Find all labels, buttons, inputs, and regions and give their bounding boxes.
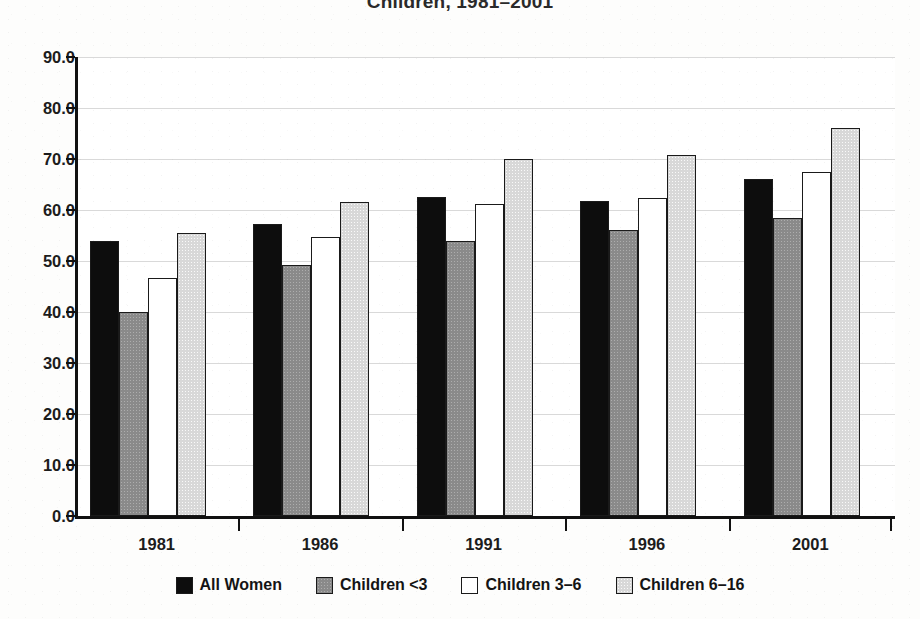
legend-swatch-icon: [176, 577, 193, 594]
legend-label: Children <3: [340, 576, 428, 594]
x-axis-tick-label: 1991: [424, 535, 544, 554]
x-axis-tick-label: 1981: [97, 535, 217, 554]
legend-swatch-icon: [316, 577, 333, 594]
x-axis: 19811986199119962001: [75, 519, 892, 561]
y-axis-tick-mark: [66, 158, 75, 160]
y-axis-tick-mark: [66, 515, 75, 517]
y-axis-tick-mark: [66, 209, 75, 211]
y-axis-tick-mark: [66, 56, 75, 58]
bar[interactable]: [638, 198, 667, 516]
bar[interactable]: [504, 159, 533, 517]
legend-label: Children 6–16: [640, 576, 745, 594]
bar[interactable]: [773, 218, 802, 516]
bar[interactable]: [609, 230, 638, 516]
bar[interactable]: [90, 241, 119, 516]
bar[interactable]: [831, 128, 860, 516]
x-axis-tick-mark: [565, 519, 567, 531]
bar-group: [253, 57, 369, 516]
bar[interactable]: [119, 312, 148, 516]
x-axis-tick-mark: [729, 519, 731, 531]
bar-group: [90, 57, 206, 516]
x-axis-tick-mark: [402, 519, 404, 531]
x-axis-tick-label: 1996: [587, 535, 707, 554]
y-axis-tick-mark: [66, 413, 75, 415]
y-axis-tick-mark: [66, 311, 75, 313]
bar[interactable]: [580, 201, 609, 516]
legend-item[interactable]: Children 6–16: [616, 576, 745, 594]
y-axis: 0.010.020.030.040.050.060.070.080.090.0: [0, 0, 75, 619]
bar[interactable]: [177, 233, 206, 516]
bar[interactable]: [148, 278, 177, 516]
chart-page: Children, 1981–2001 0.010.020.030.040.05…: [0, 0, 920, 619]
x-axis-tick-mark: [238, 519, 240, 531]
legend-label: Children 3–6: [485, 576, 581, 594]
bar[interactable]: [417, 197, 446, 516]
legend-item[interactable]: All Women: [176, 576, 282, 594]
bar[interactable]: [311, 237, 340, 516]
x-axis-tick-label: 1986: [260, 535, 380, 554]
x-axis-tick-mark: [890, 519, 892, 531]
y-axis-tick-mark: [66, 260, 75, 262]
y-axis-tick-mark: [66, 362, 75, 364]
bar[interactable]: [744, 179, 773, 516]
bar-group: [417, 57, 533, 516]
plot-area: [75, 57, 895, 519]
bar-group: [744, 57, 860, 516]
legend-item[interactable]: Children <3: [316, 576, 428, 594]
legend-item[interactable]: Children 3–6: [461, 576, 581, 594]
bar[interactable]: [282, 265, 311, 516]
bar-group: [580, 57, 696, 516]
bar[interactable]: [253, 224, 282, 516]
x-axis-tick-label: 2001: [750, 535, 870, 554]
bar[interactable]: [667, 155, 696, 516]
y-axis-tick-mark: [66, 107, 75, 109]
bar[interactable]: [475, 204, 504, 516]
chart-title: Children, 1981–2001: [0, 0, 920, 13]
legend-swatch-icon: [616, 577, 633, 594]
legend-swatch-icon: [461, 577, 478, 594]
legend-label: All Women: [200, 576, 282, 594]
bar[interactable]: [340, 202, 369, 516]
bar[interactable]: [802, 172, 831, 516]
bar[interactable]: [446, 241, 475, 516]
chart-legend: All WomenChildren <3Children 3–6Children…: [0, 576, 920, 594]
y-axis-tick-mark: [66, 464, 75, 466]
